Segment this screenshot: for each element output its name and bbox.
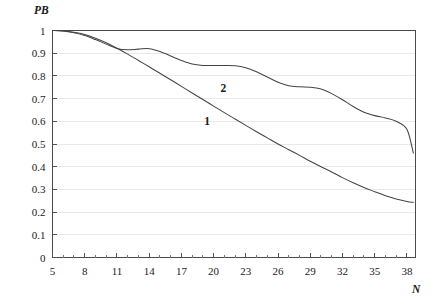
x-tick-label: 5 (50, 265, 56, 277)
y-tick-label: 0.2 (32, 206, 46, 218)
y-tick-label: 0.5 (32, 138, 46, 150)
y-tick-label: 0.1 (32, 229, 46, 241)
y-tick-label: 1 (40, 25, 46, 37)
y-axis-title: PB (34, 4, 49, 16)
chart-figure: 5811141720232629323538 00.10.20.30.40.50… (0, 0, 440, 304)
x-tick-label: 8 (82, 265, 88, 277)
x-tick-label: 14 (144, 265, 156, 277)
x-tick-label: 32 (337, 265, 348, 277)
series-labels: 12 (204, 82, 226, 126)
y-axis-tick-labels: 00.10.20.30.40.50.60.70.80.91 (32, 25, 46, 264)
x-tick-label: 23 (240, 265, 252, 277)
series-label-1: 1 (204, 115, 210, 127)
x-tick-label: 11 (112, 265, 123, 277)
series-curve-2 (53, 31, 414, 154)
series-curve-1 (53, 31, 414, 203)
x-tick-label: 38 (401, 265, 413, 277)
y-tick-label: 0.8 (32, 70, 46, 82)
y-tick-label: 0.7 (32, 93, 46, 105)
x-axis-tick-labels: 5811141720232629323538 (50, 265, 413, 277)
line-chart: 5811141720232629323538 00.10.20.30.40.50… (0, 0, 440, 304)
x-tick-label: 20 (208, 265, 220, 277)
x-tick-label: 35 (369, 265, 381, 277)
x-tick-label: 17 (176, 265, 188, 277)
data-series (53, 31, 414, 203)
y-tick-label: 0.9 (32, 47, 46, 59)
x-axis-ticks (53, 253, 407, 258)
y-tick-label: 0.6 (32, 115, 46, 127)
y-tick-label: 0.3 (32, 183, 46, 195)
series-label-2: 2 (220, 82, 226, 94)
grid-lines (53, 31, 416, 235)
x-axis-title: N (411, 283, 421, 295)
y-tick-label: 0.4 (32, 161, 46, 173)
x-tick-label: 29 (305, 265, 317, 277)
y-axis-ticks (53, 31, 57, 258)
y-tick-label: 0 (40, 252, 46, 264)
x-tick-label: 26 (273, 265, 285, 277)
